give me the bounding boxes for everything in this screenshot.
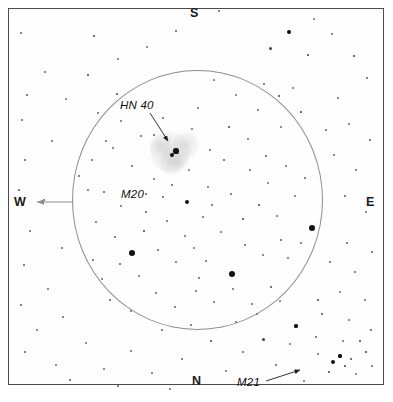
star-point xyxy=(348,123,350,125)
star-point xyxy=(18,189,19,190)
star-point xyxy=(366,77,367,78)
star-chart: S N W E HN 40 M20 M21 xyxy=(0,0,393,402)
star-point xyxy=(317,299,319,301)
star-point xyxy=(61,247,63,249)
field-of-view-circle xyxy=(72,70,323,330)
star-point xyxy=(62,316,64,318)
star-point xyxy=(355,169,357,171)
star-point xyxy=(263,83,265,85)
star-point xyxy=(333,154,335,156)
star-point xyxy=(354,271,356,273)
star-point xyxy=(300,111,302,113)
star-point xyxy=(69,379,71,381)
star-point xyxy=(337,97,339,99)
star-point xyxy=(278,95,281,98)
star-point xyxy=(342,340,344,342)
star-point xyxy=(93,35,95,37)
star-point xyxy=(117,385,118,386)
star-point xyxy=(303,380,305,382)
star-point xyxy=(24,159,26,161)
star-point xyxy=(328,371,330,373)
compass-label-west: W xyxy=(14,195,26,209)
star-point xyxy=(269,47,272,50)
star-point xyxy=(365,211,367,213)
star-point xyxy=(359,340,362,343)
star-point xyxy=(279,300,281,302)
star-point xyxy=(23,264,25,266)
star-point xyxy=(331,33,333,35)
star-point xyxy=(55,364,57,366)
star-point xyxy=(29,230,31,232)
star-point xyxy=(44,71,46,73)
star-point xyxy=(85,342,87,344)
star-point xyxy=(370,329,372,331)
star-point xyxy=(371,251,373,253)
label-hn40: HN 40 xyxy=(120,99,154,111)
star-point xyxy=(43,199,45,201)
star-point xyxy=(109,299,111,301)
star-point xyxy=(146,46,148,48)
star-point xyxy=(103,368,105,370)
star-point xyxy=(339,291,341,293)
star-point xyxy=(210,340,212,342)
star-point xyxy=(36,329,38,331)
star-point xyxy=(116,93,119,96)
star-point xyxy=(151,372,153,374)
label-m20: M20 xyxy=(121,188,144,200)
star-point xyxy=(175,30,177,32)
star-point xyxy=(294,324,297,327)
star-point xyxy=(325,129,326,130)
star-point xyxy=(47,288,49,290)
star-point xyxy=(307,54,309,56)
star-point xyxy=(331,360,336,365)
star-point xyxy=(24,351,26,353)
star-point xyxy=(371,365,373,367)
star-point xyxy=(20,32,22,34)
star-point xyxy=(329,261,331,263)
star-point xyxy=(242,351,244,353)
star-point xyxy=(21,119,23,121)
star-point xyxy=(161,329,163,331)
compass-label-north: N xyxy=(192,374,201,388)
star-point xyxy=(130,350,132,352)
star-point xyxy=(97,112,99,114)
star-point xyxy=(87,74,89,76)
star-point xyxy=(338,354,341,357)
compass-label-south: S xyxy=(190,6,199,20)
star-point xyxy=(317,353,319,355)
star-point xyxy=(344,195,346,197)
star-point xyxy=(289,343,291,345)
star-point xyxy=(355,373,357,375)
star-point xyxy=(117,58,119,60)
star-point xyxy=(287,30,291,34)
compass-label-east: E xyxy=(366,195,375,209)
star-point xyxy=(169,388,170,389)
star-point xyxy=(344,365,347,368)
star-point xyxy=(315,336,317,338)
star-point xyxy=(51,140,53,142)
star-point xyxy=(218,10,220,12)
star-point xyxy=(353,55,355,57)
star-point xyxy=(350,358,352,360)
star-point xyxy=(364,299,366,301)
star-point xyxy=(20,304,21,305)
star-point xyxy=(369,139,371,141)
star-point xyxy=(26,94,27,95)
star-point xyxy=(65,98,67,100)
star-point xyxy=(292,87,294,89)
star-point xyxy=(181,358,183,360)
star-point xyxy=(348,319,350,321)
star-point xyxy=(262,338,265,341)
star-point xyxy=(321,313,323,315)
star-point xyxy=(275,364,277,366)
star-point xyxy=(346,242,348,244)
star-point xyxy=(365,351,367,353)
label-m21: M21 xyxy=(237,376,260,388)
star-point xyxy=(225,370,227,372)
star-point xyxy=(313,18,315,20)
